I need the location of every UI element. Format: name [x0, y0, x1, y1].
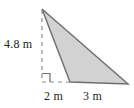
geometry-figure: 4.8 m 2 m 3 m — [0, 0, 134, 108]
triangle-shape — [42, 9, 128, 84]
height-dimension-label: 4.8 m — [4, 38, 32, 51]
right-angle-marker-icon — [42, 74, 50, 83]
triangle-diagram-svg — [0, 0, 134, 108]
base-dimension-label: 3 m — [83, 90, 102, 103]
offset-dimension-label: 2 m — [44, 90, 63, 103]
